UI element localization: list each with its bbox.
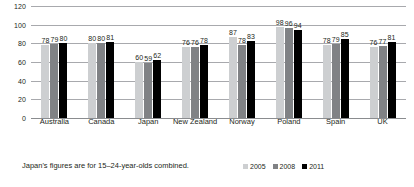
- bar-value-label: 76: [370, 39, 378, 46]
- chart-footer: Japan's figures are for 15–24-year-olds …: [0, 158, 414, 174]
- bar-value-label: 76: [191, 39, 199, 46]
- bar-value-label: 77: [379, 38, 387, 45]
- footnote: Japan's figures are for 15–24-year-olds …: [22, 162, 189, 170]
- bar-value-label: 78: [200, 37, 208, 44]
- bar: 77: [379, 46, 387, 118]
- y-axis-tick-label: 80: [18, 40, 26, 47]
- legend-swatch: [302, 164, 307, 169]
- legend-swatch: [243, 164, 248, 169]
- y-axis-tick-label: 40: [18, 77, 26, 84]
- y-axis-tick-label: 120: [14, 3, 26, 10]
- legend-label: 2005: [250, 163, 266, 170]
- y-axis-tick-label: 100: [14, 21, 26, 28]
- bar-group: 877883: [219, 6, 266, 118]
- bar: 81: [106, 42, 114, 118]
- bar-value-label: 78: [41, 37, 49, 44]
- bar: 81: [388, 42, 396, 118]
- bar-value-label: 78: [238, 37, 246, 44]
- legend-label: 2011: [309, 163, 324, 170]
- bar: 94: [294, 30, 302, 118]
- bar: 76: [182, 47, 190, 118]
- bar-value-label: 80: [97, 35, 105, 42]
- legend-label: 2008: [280, 163, 296, 170]
- bar-group: 808081: [78, 6, 125, 118]
- bar: 79: [50, 44, 58, 118]
- bar-value-label: 83: [247, 33, 255, 40]
- bar: 76: [191, 47, 199, 118]
- bar-group: 767781: [359, 6, 406, 118]
- bar-value-label: 81: [388, 34, 396, 41]
- bar-value-label: 80: [59, 35, 67, 42]
- bar-group: 787985: [312, 6, 359, 118]
- bar-value-label: 59: [144, 55, 152, 62]
- bar: 60: [135, 62, 143, 118]
- bar-groups: 7879808080816059627676788778839896947879…: [31, 6, 406, 118]
- y-axis: 020406080100120: [0, 6, 30, 118]
- bar-group: 605962: [125, 6, 172, 118]
- category-label: Australia: [31, 118, 78, 126]
- bar: 78: [200, 45, 208, 118]
- bar: 59: [144, 63, 152, 118]
- bar-chart-figure: 020406080100120 787980808081605962767678…: [0, 0, 414, 187]
- bar-value-label: 76: [182, 39, 190, 46]
- legend: 200520082011: [243, 163, 324, 170]
- bar-value-label: 79: [332, 36, 340, 43]
- y-axis-tick-label: 0: [22, 115, 26, 122]
- bar: 62: [153, 60, 161, 118]
- category-label: UK: [359, 118, 406, 126]
- bar-value-label: 98: [276, 19, 284, 26]
- bar-value-label: 81: [106, 34, 114, 41]
- bar: 78: [238, 45, 246, 118]
- bar: 78: [41, 45, 49, 118]
- bar: 98: [276, 27, 284, 118]
- bar: 96: [285, 28, 293, 118]
- bar-value-label: 85: [341, 31, 349, 38]
- bar-value-label: 94: [294, 22, 302, 29]
- bar-value-label: 79: [50, 36, 58, 43]
- bar: 79: [332, 44, 340, 118]
- bar: 87: [229, 37, 237, 118]
- legend-swatch: [273, 164, 278, 169]
- category-label: Canada: [78, 118, 125, 126]
- bar: 76: [370, 47, 378, 118]
- bar-value-label: 78: [323, 37, 331, 44]
- bar-group: 989694: [265, 6, 312, 118]
- legend-item[interactable]: 2005: [243, 163, 266, 170]
- bar: 85: [341, 39, 349, 118]
- y-axis-tick-label: 20: [18, 96, 26, 103]
- bar-value-label: 62: [153, 52, 161, 59]
- bar-value-label: 87: [229, 29, 237, 36]
- legend-item[interactable]: 2011: [302, 163, 324, 170]
- bar: 78: [323, 45, 331, 118]
- bar: 80: [97, 43, 105, 118]
- bar: 83: [247, 41, 255, 118]
- category-label: Norway: [219, 118, 266, 126]
- bar-group: 767678: [172, 6, 219, 118]
- category-label: Japan: [125, 118, 172, 126]
- category-label: Spain: [312, 118, 359, 126]
- bar-group: 787980: [31, 6, 78, 118]
- bar-value-label: 60: [135, 54, 143, 61]
- bar-value-label: 80: [88, 35, 96, 42]
- category-label: Poland: [265, 118, 312, 126]
- bar: 80: [59, 43, 67, 118]
- legend-item[interactable]: 2008: [273, 163, 296, 170]
- category-axis: AustraliaCanadaJapanNew ZealandNorwayPol…: [31, 118, 406, 126]
- bar: 80: [88, 43, 96, 118]
- bar-value-label: 96: [285, 20, 293, 27]
- y-axis-tick-label: 60: [18, 59, 26, 66]
- category-label: New Zealand: [172, 118, 219, 126]
- plot-area: 020406080100120 787980808081605962767678…: [0, 6, 414, 132]
